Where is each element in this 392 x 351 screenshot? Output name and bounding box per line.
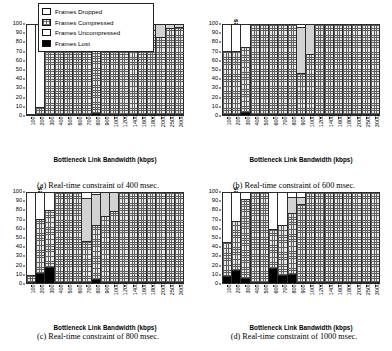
y-tick-label: 80	[16, 208, 22, 214]
y-axis-ticks: 0102030405060708090100	[196, 24, 221, 116]
stacked-bar[interactable]	[27, 25, 36, 115]
stacked-bar[interactable]	[306, 25, 315, 115]
bar-segment	[269, 25, 277, 115]
stacked-bar[interactable]	[251, 25, 260, 115]
y-tick-mark	[219, 284, 222, 285]
stacked-bar[interactable]	[241, 25, 250, 115]
y-tick-label: 50	[212, 67, 218, 73]
stacked-bar[interactable]	[297, 25, 306, 115]
stacked-bar[interactable]	[232, 193, 241, 283]
stacked-bar[interactable]	[288, 193, 297, 283]
bar-segment	[166, 193, 174, 283]
black-square-icon	[42, 40, 51, 47]
stacked-bar[interactable]	[325, 25, 334, 115]
y-tick-mark	[23, 210, 26, 211]
stacked-bar[interactable]	[362, 193, 371, 283]
x-tick: 2500	[165, 117, 174, 153]
y-tick-label: 40	[212, 244, 218, 250]
stacked-bar[interactable]	[73, 193, 82, 283]
x-axis-ticks: 1002003004005006007008009001000120014001…	[26, 285, 184, 321]
stacked-bar[interactable]	[297, 193, 306, 283]
bar-segment	[371, 193, 379, 283]
x-tick: 300	[241, 117, 250, 153]
stacked-bar[interactable]	[269, 193, 278, 283]
stacked-bar[interactable]	[334, 193, 343, 283]
y-tick-label: 20	[16, 263, 22, 269]
stacked-bar[interactable]	[371, 25, 379, 115]
y-tick-mark	[23, 284, 26, 285]
stacked-bar[interactable]	[175, 25, 183, 115]
stacked-bar[interactable]	[352, 25, 361, 115]
stacked-bar[interactable]	[175, 193, 183, 283]
stacked-bar[interactable]	[129, 193, 138, 283]
x-tick: 100	[222, 285, 231, 321]
stacked-bar[interactable]	[27, 193, 36, 283]
stacked-bar[interactable]	[110, 193, 119, 283]
stacked-bar[interactable]	[343, 25, 352, 115]
stacked-bar[interactable]	[119, 193, 128, 283]
stacked-bar[interactable]	[147, 193, 156, 283]
stacked-bar[interactable]	[269, 25, 278, 115]
stacked-bar[interactable]	[64, 193, 73, 283]
x-tick: 2000	[156, 117, 165, 153]
y-tick-label: 30	[212, 86, 218, 92]
y-tick-mark	[219, 238, 222, 239]
bar-segment	[223, 277, 231, 283]
bar-segment	[110, 193, 118, 212]
y-tick-label: 40	[16, 76, 22, 82]
bar-segment	[297, 28, 305, 74]
stacked-bar[interactable]	[343, 193, 352, 283]
x-tick: 1000	[110, 117, 119, 153]
bar-segment	[306, 55, 314, 115]
bar-segment	[156, 38, 164, 115]
light-gray-square-icon	[42, 29, 51, 36]
stacked-bar[interactable]	[325, 193, 334, 283]
x-tick: 1200	[119, 117, 128, 153]
y-tick-mark	[219, 97, 222, 98]
x-tick: 3000	[175, 117, 184, 153]
stacked-bar[interactable]	[223, 193, 232, 283]
stacked-bar[interactable]	[156, 193, 165, 283]
stacked-bar[interactable]	[278, 25, 287, 115]
x-tick: 900	[296, 285, 305, 321]
stacked-bar[interactable]	[36, 193, 45, 283]
x-tick-label: 3000	[179, 283, 185, 295]
stacked-bar[interactable]	[306, 193, 315, 283]
stacked-bar[interactable]	[82, 193, 91, 283]
stacked-bar[interactable]	[352, 193, 361, 283]
stacked-bar[interactable]	[223, 25, 232, 115]
x-tick: 1600	[334, 285, 343, 321]
stacked-bar[interactable]	[315, 25, 324, 115]
stacked-bar[interactable]	[156, 25, 165, 115]
stacked-bar[interactable]	[251, 193, 260, 283]
stacked-bar[interactable]	[232, 25, 241, 115]
stacked-bar[interactable]	[288, 25, 297, 115]
bar-segment	[92, 280, 100, 283]
bar-segment	[260, 25, 268, 115]
x-tick: 900	[296, 117, 305, 153]
bar-segment	[278, 226, 286, 276]
stacked-bar[interactable]	[260, 193, 269, 283]
stacked-bar[interactable]	[371, 193, 379, 283]
stacked-bar[interactable]	[166, 193, 175, 283]
stacked-bar[interactable]	[92, 193, 101, 283]
stacked-bar[interactable]	[362, 25, 371, 115]
x-tick: 1200	[315, 117, 324, 153]
bar-segment	[82, 199, 90, 241]
stacked-bar[interactable]	[315, 193, 324, 283]
y-tick-label: 70	[16, 49, 22, 55]
y-tick-label: 10	[212, 272, 218, 278]
stacked-bar[interactable]	[138, 193, 147, 283]
x-tick: 3000	[371, 285, 380, 321]
x-tick: 2500	[165, 285, 174, 321]
stacked-bar[interactable]	[55, 193, 64, 283]
stacked-bar[interactable]	[45, 193, 54, 283]
stacked-bar[interactable]	[241, 193, 250, 283]
x-tick: 500	[259, 117, 268, 153]
stacked-bar[interactable]	[278, 193, 287, 283]
stacked-bar[interactable]	[166, 25, 175, 115]
bar-segment	[288, 214, 296, 275]
stacked-bar[interactable]	[334, 25, 343, 115]
stacked-bar[interactable]	[260, 25, 269, 115]
stacked-bar[interactable]	[101, 193, 110, 283]
